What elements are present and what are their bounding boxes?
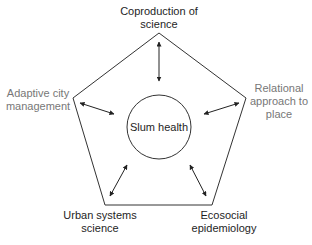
node-right-line2: approach to bbox=[248, 95, 310, 108]
node-bottom-left-line2: science bbox=[60, 222, 140, 235]
node-top-line2: science bbox=[114, 18, 204, 31]
arrow-bottom-left bbox=[110, 165, 127, 196]
node-left-line2: management bbox=[5, 100, 71, 113]
node-top-line1: Coproduction of bbox=[114, 5, 204, 18]
node-right-line3: place bbox=[248, 108, 310, 121]
node-left-line1: Adaptive city bbox=[5, 87, 71, 100]
node-bottom-right-line1: Ecosocial bbox=[184, 209, 264, 222]
arrow-bottom-right bbox=[190, 165, 206, 196]
node-bottom-left-label: Urban systems science bbox=[60, 209, 140, 235]
node-bottom-right-line2: epidemiology bbox=[184, 222, 264, 235]
arrow-left bbox=[80, 103, 114, 114]
node-top-label: Coproduction of science bbox=[114, 5, 204, 31]
node-bottom-right-label: Ecosocial epidemiology bbox=[184, 209, 264, 235]
arrow-right bbox=[204, 103, 239, 114]
node-right-label: Relational approach to place bbox=[248, 82, 310, 121]
node-bottom-left-line1: Urban systems bbox=[60, 209, 140, 222]
node-left-label: Adaptive city management bbox=[5, 87, 71, 113]
node-right-line1: Relational bbox=[248, 82, 310, 95]
center-label: Slum health bbox=[119, 121, 199, 134]
center-label-text: Slum health bbox=[130, 121, 188, 133]
